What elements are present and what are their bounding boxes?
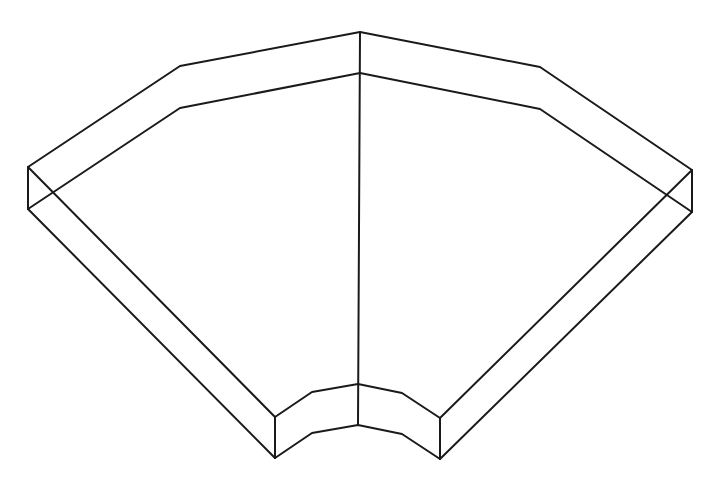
left-side-top-edge xyxy=(28,167,275,417)
vertical-edge-4 xyxy=(358,32,360,425)
inner-bottom-edge xyxy=(275,425,440,459)
left-side-bottom-edge xyxy=(28,209,275,458)
right-side-top-edge xyxy=(440,170,692,418)
elbow-diagram xyxy=(0,0,724,484)
elbow-drawing xyxy=(0,0,724,484)
right-side-bottom-edge xyxy=(440,212,692,459)
